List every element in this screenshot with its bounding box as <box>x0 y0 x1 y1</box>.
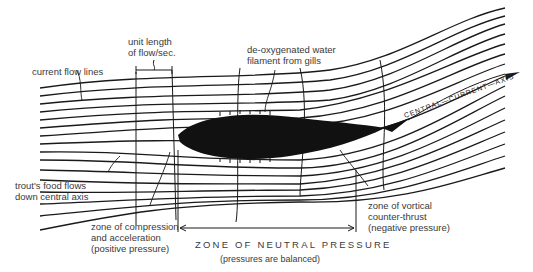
neutral-zone-title: ZONE OF NEUTRAL PRESSURE <box>195 239 392 250</box>
central-axis-arrow: CENTRAL—CURRENT—AXIS <box>403 72 520 120</box>
unit-length-label: unit length of flow/sec. <box>128 36 176 58</box>
unit-length-bracket <box>136 60 172 74</box>
current-flow-lines-label: current flow lines <box>32 66 103 77</box>
food-flows-label: trout's food flows down central axis <box>15 180 88 202</box>
flow-diagram: CENTRAL—CURRENT—AXIS <box>0 0 533 272</box>
trout-tail <box>382 118 410 132</box>
deoxygenated-label: de-oxygenated water filament from gills <box>247 44 336 66</box>
vortical-zone-label: zone of vortical counter-thrust (negativ… <box>368 200 450 233</box>
compression-zone-label: zone of compression and acceleration (po… <box>91 221 179 254</box>
neutral-zone-subtitle: (pressures are balanced) <box>220 254 320 264</box>
